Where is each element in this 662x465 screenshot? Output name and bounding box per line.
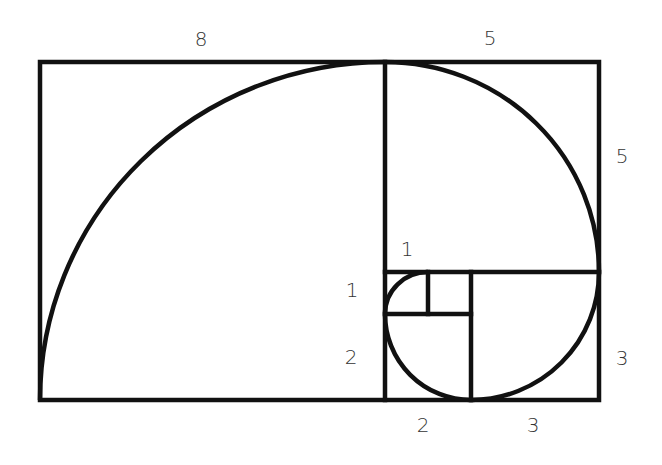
- label-bottom-2: 2: [417, 415, 430, 435]
- outer-rectangle: [40, 62, 599, 400]
- spiral-arc-2: [385, 314, 471, 400]
- label-top-5: 5: [484, 28, 497, 48]
- spiral-arc-1: [385, 272, 428, 314]
- label-top-8: 8: [195, 29, 208, 49]
- label-right-3: 3: [616, 348, 629, 368]
- fibonacci-spiral-diagram: [0, 0, 662, 465]
- label-left-2: 2: [345, 347, 358, 367]
- label-left-1: 1: [346, 280, 359, 300]
- label-inner-1: 1: [401, 239, 414, 259]
- spiral-arc-3: [471, 272, 599, 400]
- label-right-5: 5: [616, 146, 629, 166]
- label-bottom-3: 3: [527, 415, 540, 435]
- spiral-arc-5: [385, 62, 599, 272]
- spiral-arc-8: [40, 62, 385, 400]
